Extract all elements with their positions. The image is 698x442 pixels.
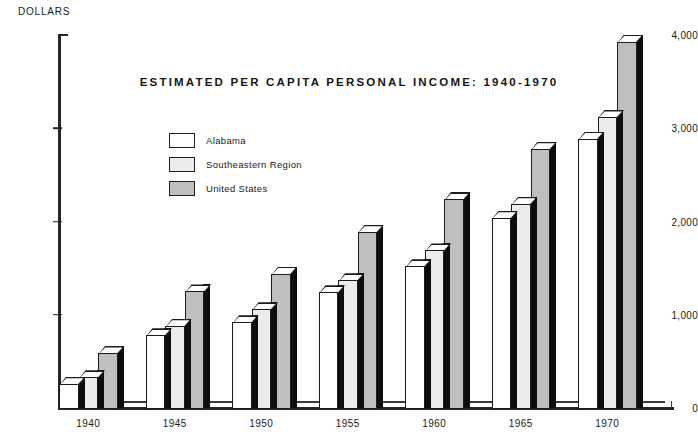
bar-side-face xyxy=(597,132,604,408)
bar-side-face xyxy=(251,315,258,408)
y-axis-tick-label: 4,000 xyxy=(652,30,698,41)
axis-platform-edge xyxy=(124,401,146,403)
x-axis-tick-label: 1965 xyxy=(509,418,533,429)
bar-1955-alabama xyxy=(319,292,339,409)
x-axis-tick-label: 1970 xyxy=(595,418,619,429)
chart-legend: Alabama Southeastern Region United State… xyxy=(169,128,302,200)
legend-swatch-alabama xyxy=(169,133,195,148)
x-axis-tick-label: 1940 xyxy=(76,418,100,429)
chart-title: ESTIMATED PER CAPITA PERSONAL INCOME: 19… xyxy=(0,76,698,88)
legend-swatch-united-states xyxy=(169,181,195,196)
bar-side-face xyxy=(443,243,450,408)
y-axis-unit-label: DOLLARS xyxy=(18,6,70,17)
axis-platform-edge xyxy=(383,401,405,403)
axis-platform-edge xyxy=(297,401,319,403)
legend-item: Southeastern Region xyxy=(169,152,302,176)
x-axis-tick-label: 1955 xyxy=(336,418,360,429)
axis-platform-edge xyxy=(210,401,232,403)
bar-side-face xyxy=(424,259,431,408)
bar-side-face xyxy=(510,211,517,408)
bar-side-face xyxy=(337,285,344,408)
bar-side-face xyxy=(270,302,277,408)
axis-platform-edge xyxy=(643,401,665,403)
bar-1945-alabama xyxy=(146,335,166,409)
chart-figure: DOLLARS ESTIMATED PER CAPITA PERSONAL IN… xyxy=(0,0,698,442)
axis-platform-edge xyxy=(470,401,492,403)
axis-platform-edge xyxy=(556,401,578,403)
legend-label-united-states: United States xyxy=(206,183,268,194)
y-axis-line xyxy=(58,35,61,409)
x-axis-tick-label: 1960 xyxy=(422,418,446,429)
legend-item: United States xyxy=(169,176,302,200)
x-axis-tick-label: 1950 xyxy=(249,418,273,429)
bar-1940-alabama xyxy=(59,384,79,409)
legend-item: Alabama xyxy=(169,128,302,152)
bar-side-face xyxy=(203,284,210,408)
bar-1950-alabama xyxy=(232,322,252,409)
legend-label-alabama: Alabama xyxy=(206,135,246,146)
bar-side-face xyxy=(357,273,364,408)
bar-side-face xyxy=(184,319,191,408)
bar-side-face xyxy=(636,35,643,408)
y-axis-tick-label: 1,000 xyxy=(652,309,698,320)
bar-side-face xyxy=(290,267,297,408)
y-axis-tick-label: 2,000 xyxy=(652,216,698,227)
bar-1965-alabama xyxy=(492,218,512,409)
bar-side-face xyxy=(549,142,556,408)
bar-side-face xyxy=(117,346,124,408)
bar-side-face xyxy=(530,197,537,408)
bar-side-face xyxy=(463,192,470,408)
bar-side-face xyxy=(616,110,623,408)
y-axis-tick-label: 3,000 xyxy=(652,123,698,134)
bar-1970-alabama xyxy=(578,139,598,409)
bar-1960-alabama xyxy=(405,266,425,409)
bar-side-face xyxy=(164,328,171,408)
x-axis-tick-label: 1945 xyxy=(163,418,187,429)
bar-side-face xyxy=(376,225,383,408)
axis-platform-riser xyxy=(671,401,673,408)
legend-swatch-southeastern-region xyxy=(169,157,195,172)
legend-label-southeastern-region: Southeastern Region xyxy=(206,159,302,170)
